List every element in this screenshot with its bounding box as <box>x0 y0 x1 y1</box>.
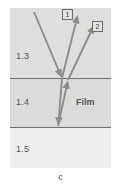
thin-film-interference-figure: 1 2 1.3 1.4 1.5 Film c <box>0 0 121 193</box>
ray-label-2: 2 <box>92 21 103 32</box>
diagram-panel: 1 2 1.3 1.4 1.5 Film <box>10 8 111 168</box>
ray-emergent-2 <box>68 27 93 81</box>
figure-caption: c <box>0 172 121 182</box>
film-label: Film <box>76 97 95 107</box>
refractive-index-label-film: 1.4 <box>16 97 29 107</box>
refractive-index-label-substrate: 1.5 <box>16 144 29 154</box>
ray-reflected-1 <box>62 17 77 79</box>
refractive-index-label-top: 1.3 <box>16 51 29 61</box>
ray-incident <box>34 12 61 76</box>
ray-label-1: 1 <box>62 9 73 20</box>
